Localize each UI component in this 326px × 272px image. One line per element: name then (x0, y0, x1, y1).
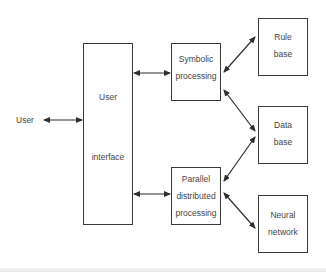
rule-base-label-line1: Rule (258, 32, 308, 42)
bottom-edge-strip (0, 268, 326, 272)
neural-network-label-line1: Neural (258, 210, 308, 220)
parallel-label-line1: Parallel (171, 174, 221, 184)
parallel-label-line2: distributed (171, 191, 221, 201)
user-interface-box (83, 43, 133, 225)
data-base-label-line2: base (258, 137, 308, 147)
data-base-box (258, 106, 308, 164)
arrow-parallel-to-data-base (224, 137, 255, 181)
rule-base-box (258, 18, 308, 76)
user-actor-label: User (16, 115, 34, 125)
symbolic-processing-label-line2: processing (171, 71, 221, 81)
data-base-label-line1: Data (258, 120, 308, 130)
arrow-parallel-to-neural-network (224, 193, 255, 228)
symbolic-processing-label-line1: Symbolic (171, 54, 221, 64)
arrow-symbolic-to-data-base (224, 90, 255, 131)
user-interface-label-line1: User (83, 92, 133, 102)
rule-base-label-line2: base (258, 49, 308, 59)
neural-network-label-line2: network (258, 227, 308, 237)
neural-network-box (258, 195, 308, 253)
user-interface-label-line2: interface (83, 152, 133, 162)
parallel-label-line3: processing (171, 208, 221, 218)
arrow-symbolic-to-rule-base (224, 37, 255, 72)
